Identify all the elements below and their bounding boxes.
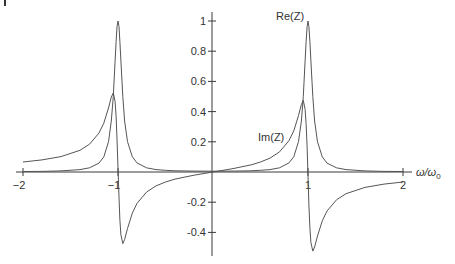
axes (16, 12, 412, 256)
re-z-curve (23, 21, 403, 172)
y-tick-label: 0.6 (191, 75, 206, 87)
re-z-label: Re(Z) (276, 10, 304, 22)
y-tick-label: -0.2 (187, 196, 206, 208)
x-tick-label: −2 (13, 179, 26, 191)
im-z-label: Im(Z) (258, 131, 284, 143)
y-tick-label: 0.4 (191, 106, 206, 118)
x-axis-label: ω/ω0 (416, 166, 441, 181)
curves (23, 21, 403, 251)
resonance-chart: −2−112 10.80.60.40.2-0.2-0.4 Re(Z) Im(Z)… (0, 0, 455, 264)
y-tick-label: -0.4 (187, 226, 206, 238)
x-axis-label-subscript: 0 (436, 172, 441, 181)
x-axis-label-main: ω/ω (416, 166, 437, 178)
y-tick-label: 0.8 (191, 45, 206, 57)
y-tick-label: 0.2 (191, 136, 206, 148)
x-tick-label: 2 (400, 179, 406, 191)
y-tick-label: 1 (200, 15, 206, 27)
